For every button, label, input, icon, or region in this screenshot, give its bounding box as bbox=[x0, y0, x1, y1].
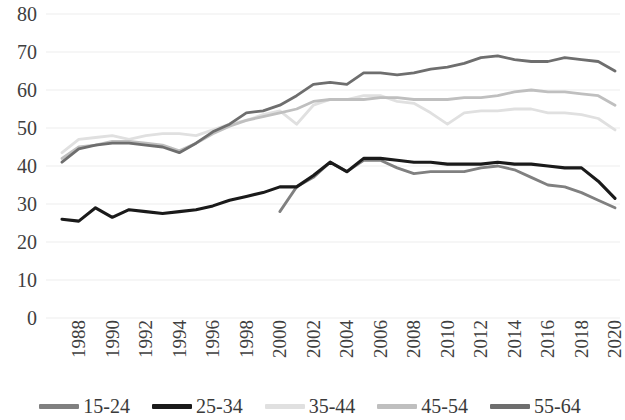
x-tick-label-1988: 1988 bbox=[69, 320, 88, 358]
series-line-25-34 bbox=[62, 158, 615, 221]
y-tick-label-50: 50 bbox=[17, 118, 37, 138]
x-tick-label-1996: 1996 bbox=[203, 320, 222, 358]
legend-swatch-icon bbox=[265, 404, 305, 409]
legend-swatch-icon bbox=[39, 404, 79, 409]
x-tick-label-1992: 1992 bbox=[136, 320, 155, 358]
gridlines bbox=[46, 14, 620, 318]
x-tick-label-2012: 2012 bbox=[471, 320, 490, 358]
x-tick-label-1994: 1994 bbox=[170, 320, 189, 358]
x-tick-label-2010: 2010 bbox=[438, 320, 457, 358]
legend-label: 35-44 bbox=[309, 396, 356, 416]
plot-area bbox=[46, 0, 620, 330]
legend-item-35-44[interactable]: 35-44 bbox=[265, 396, 356, 416]
series-line-45-54 bbox=[62, 90, 615, 158]
x-tick-label-2006: 2006 bbox=[371, 320, 390, 358]
y-axis-tick-labels: 01020304050607080 bbox=[0, 0, 44, 330]
x-tick-label-2002: 2002 bbox=[304, 320, 323, 358]
legend-swatch-icon bbox=[490, 404, 530, 409]
y-tick-label-40: 40 bbox=[17, 156, 37, 176]
chart-legend: 15-2425-3435-4445-5455-64 bbox=[0, 392, 620, 420]
x-tick-label-2000: 2000 bbox=[270, 320, 289, 358]
y-tick-label-30: 30 bbox=[17, 194, 37, 214]
legend-item-15-24[interactable]: 15-24 bbox=[39, 396, 130, 416]
legend-item-45-54[interactable]: 45-54 bbox=[377, 396, 468, 416]
x-tick-label-2018: 2018 bbox=[572, 320, 591, 358]
legend-label: 45-54 bbox=[421, 396, 468, 416]
y-tick-label-80: 80 bbox=[17, 4, 37, 24]
legend-label: 15-24 bbox=[83, 396, 130, 416]
x-tick-label-1990: 1990 bbox=[103, 320, 122, 358]
x-axis-tick-labels: 1988199019921994199619982000200220042006… bbox=[46, 320, 620, 390]
legend-item-25-34[interactable]: 25-34 bbox=[152, 396, 243, 416]
x-tick-label-1998: 1998 bbox=[237, 320, 256, 358]
y-tick-label-60: 60 bbox=[17, 80, 37, 100]
plot-svg bbox=[46, 0, 620, 330]
legend-item-55-64[interactable]: 55-64 bbox=[490, 396, 581, 416]
x-tick-label-2008: 2008 bbox=[404, 320, 423, 358]
legend-swatch-icon bbox=[377, 404, 417, 409]
x-tick-label-2014: 2014 bbox=[505, 320, 524, 358]
x-tick-label-2004: 2004 bbox=[337, 320, 356, 358]
y-tick-label-0: 0 bbox=[27, 308, 37, 328]
legend-label: 55-64 bbox=[534, 396, 581, 416]
y-tick-label-70: 70 bbox=[17, 42, 37, 62]
legend-swatch-icon bbox=[152, 404, 192, 409]
y-tick-label-20: 20 bbox=[17, 232, 37, 252]
series-lines bbox=[62, 56, 615, 221]
x-tick-label-2020: 2020 bbox=[605, 320, 624, 358]
x-tick-label-2016: 2016 bbox=[538, 320, 557, 358]
y-tick-label-10: 10 bbox=[17, 270, 37, 290]
legend-label: 25-34 bbox=[196, 396, 243, 416]
